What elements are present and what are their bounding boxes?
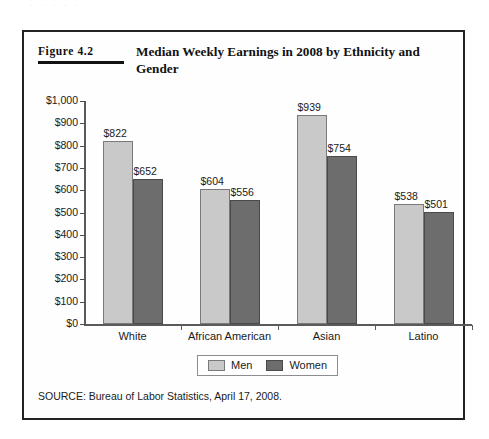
legend-swatch-women: [266, 360, 283, 371]
y-axis-tick: [80, 279, 85, 280]
chart-legend: MenWomen: [197, 355, 338, 376]
y-axis-tick-label: $100: [24, 295, 78, 307]
bar-women-latino: [424, 212, 454, 324]
source-note: SOURCE: Bureau of Labor Statistics, Apri…: [38, 390, 282, 402]
y-axis-tick: [80, 324, 85, 325]
y-axis-tick: [80, 213, 85, 214]
bar-value-label: $754: [328, 142, 351, 154]
bar-men-latino: [394, 204, 424, 324]
bar-women-white: [133, 179, 163, 324]
bar-women-african-american: [230, 200, 260, 324]
y-axis-tick-label: $1,000: [24, 94, 78, 106]
x-axis-label-asian: Asian: [278, 330, 375, 342]
bar-value-label: $822: [104, 127, 127, 139]
bar-men-white: [103, 141, 133, 324]
legend-swatch-men: [208, 360, 225, 371]
bar-women-asian: [327, 156, 357, 324]
legend-item-women: Women: [266, 359, 327, 371]
y-axis-tick-label: $900: [24, 116, 78, 128]
y-axis-tick-label: $700: [24, 161, 78, 173]
legend-item-men: Men: [208, 359, 252, 371]
bar-men-asian: [297, 115, 327, 324]
bar-value-label: $939: [298, 101, 321, 113]
y-axis-tick-label: $500: [24, 206, 78, 218]
bar-value-label: $556: [231, 186, 254, 198]
bar-value-label: $604: [201, 175, 224, 187]
x-axis-label-latino: Latino: [375, 330, 472, 342]
bar-value-label: $501: [425, 198, 448, 210]
y-axis-tick-label: $200: [24, 272, 78, 284]
legend-label: Women: [289, 359, 327, 371]
y-axis-tick-label: $300: [24, 250, 78, 262]
y-axis-tick: [80, 123, 85, 124]
x-axis-tick: [472, 325, 473, 330]
y-axis-tick: [80, 235, 85, 236]
x-axis-label-african-american: African American: [181, 330, 278, 342]
legend-label: Men: [231, 359, 252, 371]
y-axis-tick-label: $0: [24, 317, 78, 329]
y-axis-tick-label: $400: [24, 228, 78, 240]
y-axis-tick: [80, 190, 85, 191]
y-axis-tick: [80, 302, 85, 303]
x-axis-label-white: White: [84, 330, 181, 342]
x-axis-tick: [375, 325, 376, 330]
page-top-text-sliver: · · · · ·: [30, 0, 250, 10]
y-axis-tick-label: $800: [24, 139, 78, 151]
x-axis-tick: [278, 325, 279, 330]
y-axis-tick-label: $600: [24, 183, 78, 195]
x-axis-tick: [181, 325, 182, 330]
y-axis-tick: [80, 257, 85, 258]
bar-value-label: $652: [134, 165, 157, 177]
y-axis-tick: [80, 146, 85, 147]
y-axis-tick: [80, 168, 85, 169]
y-axis-tick: [80, 101, 85, 102]
figure-box: Figure 4.2 Median Weekly Earnings in 200…: [22, 30, 465, 420]
bar-men-african-american: [200, 189, 230, 324]
bar-value-label: $538: [395, 190, 418, 202]
